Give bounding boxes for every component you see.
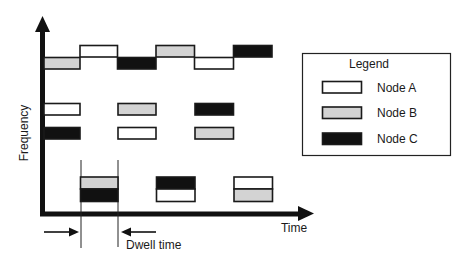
hop-slot-node-a [195,58,234,70]
legend-swatch-node-c [323,133,362,145]
channel-row-1-node-a [44,104,80,116]
hop-slot-node-c [234,46,273,58]
channel-row-2-node-b [195,128,234,140]
channel-row-2-node-c [44,128,80,140]
stacked-top-node-b [81,177,119,189]
hop-slot-node-b [44,58,80,70]
legend: Legend Node ANode BNode C [303,54,451,156]
dwell-time-label: Dwell time [126,238,182,252]
dwell-time-marker: Dwell time [44,160,182,252]
legend-label-node-a: Node A [377,81,416,95]
dwell-arrow-right-pointing-icon [69,228,79,237]
dwell-arrow-left-pointing-icon [121,228,131,237]
legend-label-node-b: Node B [377,106,417,120]
hop-slot-node-b [156,46,195,58]
legend-title: Legend [349,57,389,71]
legend-swatch-node-b [323,107,362,119]
frequency-time-diagram: Frequency Time Dwell time Legend Node AN… [0,0,469,263]
legend-swatch-node-a [323,82,362,94]
slot-blocks [44,46,273,202]
y-axis-label: Frequency [17,105,31,162]
channel-row-1-node-b [118,104,156,116]
x-axis-label: Time [281,221,308,235]
x-axis-arrow-icon [298,206,314,221]
stacked-bottom-node-c [81,189,119,202]
stacked-bottom-node-a [157,189,196,202]
legend-label-node-c: Node C [377,132,418,146]
channel-row-2-node-a [118,128,156,140]
stacked-bottom-node-b [234,189,273,202]
stacked-top-node-c [157,177,196,189]
hop-slot-node-c [118,58,157,70]
channel-row-1-node-c [195,104,234,116]
y-axis-arrow-icon [35,16,50,32]
hop-slot-node-a [80,46,118,58]
stacked-top-node-a [234,177,273,189]
